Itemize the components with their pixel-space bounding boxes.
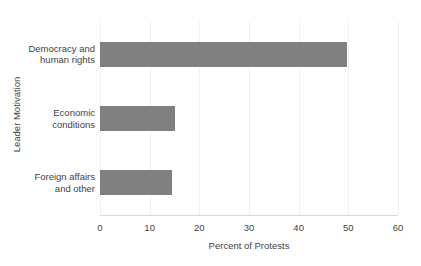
bar bbox=[100, 170, 172, 195]
x-axis-title: Percent of Protests bbox=[100, 240, 398, 251]
y-axis-tick-label-line: Democracy and bbox=[3, 43, 95, 55]
y-axis-tick-label: Foreign affairsand other bbox=[3, 171, 95, 194]
x-axis-tick-label: 30 bbox=[229, 222, 269, 233]
x-axis-tick-label: 0 bbox=[80, 222, 120, 233]
x-axis-tick-label: 60 bbox=[378, 222, 418, 233]
x-axis-tick-label: 10 bbox=[130, 222, 170, 233]
bar bbox=[100, 106, 175, 131]
y-axis-tick-label: Economicconditions bbox=[3, 107, 95, 130]
y-axis-tick-label-line: conditions bbox=[3, 119, 95, 131]
y-axis-tick-label-line: Foreign affairs bbox=[3, 171, 95, 183]
bar bbox=[100, 42, 347, 67]
y-axis-tick-label: Democracy andhuman rights bbox=[3, 43, 95, 66]
x-axis-tick-label: 50 bbox=[328, 222, 368, 233]
gridline bbox=[398, 22, 399, 215]
x-axis-tick-label: 20 bbox=[179, 222, 219, 233]
bar-chart: Leader Motivation Democracy andhuman rig… bbox=[0, 0, 421, 266]
x-axis-line bbox=[100, 215, 398, 216]
x-axis-tick-label: 40 bbox=[279, 222, 319, 233]
plot-area bbox=[100, 22, 398, 215]
y-axis-tick-label-line: human rights bbox=[3, 54, 95, 66]
gridline bbox=[348, 22, 349, 215]
y-axis-tick-label-line: Economic bbox=[3, 107, 95, 119]
y-axis-tick-label-line: and other bbox=[3, 183, 95, 195]
